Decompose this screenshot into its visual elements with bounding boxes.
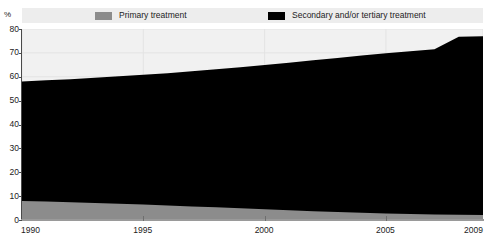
y-axis-tick-mark-50 <box>19 101 22 102</box>
x-axis-tick-mark-1995 <box>143 216 144 221</box>
chart-figure: Primary treatment Secondary and/or terti… <box>0 0 497 237</box>
x-axis-tick-mark-2000 <box>265 216 266 221</box>
y-axis-tick-mark-40 <box>19 125 22 126</box>
y-axis-tick-mark-30 <box>19 148 22 149</box>
y-axis-tick-mark-10 <box>19 196 22 197</box>
x-axis-tick-1990: 1990 <box>21 226 40 235</box>
x-axis-tick-mark-2005 <box>386 216 387 221</box>
y-axis-tick-mark-20 <box>19 172 22 173</box>
x-axis-tick-2000: 2000 <box>255 226 274 235</box>
x-axis-tick-2005: 2005 <box>376 226 395 235</box>
x-axis-tick-labels: 19901995200020052009 <box>0 0 497 237</box>
y-axis-tick-mark-80 <box>19 29 22 30</box>
y-axis-tick-mark-60 <box>19 77 22 78</box>
x-axis-tick-2009: 2009 <box>464 226 483 235</box>
y-axis-tick-mark-0 <box>19 220 22 221</box>
x-axis-tick-1995: 1995 <box>133 226 152 235</box>
y-axis-tick-mark-70 <box>19 53 22 54</box>
